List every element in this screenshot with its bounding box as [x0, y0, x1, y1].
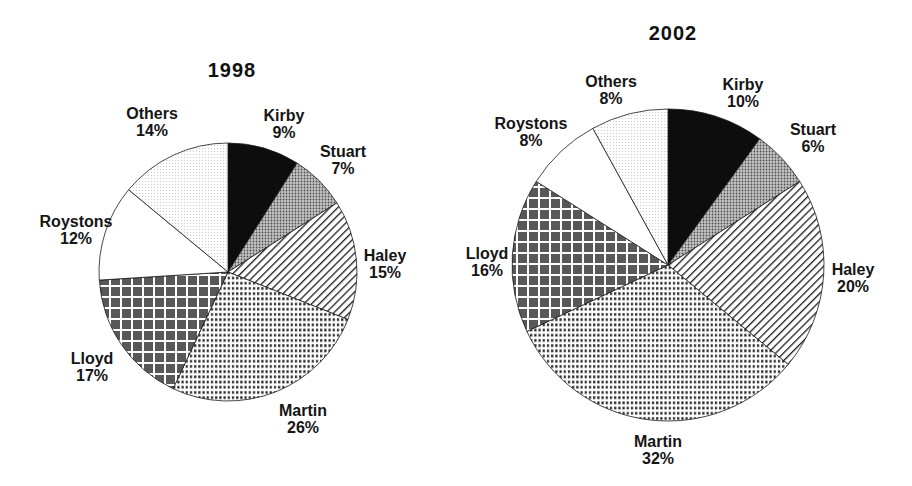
pie-group-1998: [99, 143, 357, 401]
slice-label-value: 20%: [832, 278, 875, 295]
slice-label-2002-roystons: Roystons8%: [495, 115, 568, 149]
slice-label-2002-kirby: Kirby10%: [723, 76, 764, 110]
slice-label-2002-haley: Haley20%: [832, 261, 875, 295]
chart-title-2002: 2002: [649, 22, 698, 45]
slice-label-value: 32%: [634, 450, 682, 467]
slice-label-value: 8%: [495, 132, 568, 149]
slice-label-value: 17%: [71, 367, 114, 384]
slice-label-1998-stuart: Stuart7%: [320, 143, 366, 177]
pie-group-2002: [512, 109, 824, 421]
slice-label-name: Haley: [832, 261, 875, 278]
slice-label-value: 15%: [364, 264, 407, 281]
slice-label-name: Lloyd: [71, 350, 114, 367]
slice-label-1998-lloyd: Lloyd17%: [71, 350, 114, 384]
slice-label-value: 14%: [126, 122, 178, 139]
slice-label-name: Haley: [364, 247, 407, 264]
slice-label-value: 7%: [320, 160, 366, 177]
slice-label-name: Others: [126, 105, 178, 122]
slice-label-1998-martin: Martin26%: [279, 402, 327, 436]
slice-label-value: 12%: [40, 230, 113, 247]
slice-label-name: Martin: [279, 402, 327, 419]
slice-label-name: Stuart: [320, 143, 366, 160]
slice-label-2002-martin: Martin32%: [634, 433, 682, 467]
slice-label-name: Kirby: [264, 107, 305, 124]
slice-label-1998-kirby: Kirby9%: [264, 107, 305, 141]
slice-label-name: Roystons: [40, 213, 113, 230]
slice-label-2002-lloyd: Lloyd16%: [466, 245, 509, 279]
slice-label-name: Roystons: [495, 115, 568, 132]
slice-label-value: 10%: [723, 93, 764, 110]
slice-label-1998-others: Others14%: [126, 105, 178, 139]
slice-label-value: 16%: [466, 262, 509, 279]
slice-label-name: Martin: [634, 433, 682, 450]
pies-svg: [0, 0, 912, 486]
slice-label-1998-haley: Haley15%: [364, 247, 407, 281]
slice-label-1998-roystons: Roystons12%: [40, 213, 113, 247]
slice-label-value: 26%: [279, 419, 327, 436]
slice-label-name: Lloyd: [466, 245, 509, 262]
slice-label-value: 9%: [264, 124, 305, 141]
slice-label-name: Kirby: [723, 76, 764, 93]
chart-title-1998: 1998: [208, 59, 257, 82]
slice-label-value: 6%: [790, 138, 836, 155]
slice-label-2002-stuart: Stuart6%: [790, 121, 836, 155]
slice-label-name: Stuart: [790, 121, 836, 138]
slice-label-value: 8%: [585, 90, 637, 107]
scan-canvas: 1998 2002 Kirby9%Stuart7%Haley15%Martin2…: [0, 0, 912, 486]
slice-label-name: Others: [585, 73, 637, 90]
slice-label-2002-others: Others8%: [585, 73, 637, 107]
